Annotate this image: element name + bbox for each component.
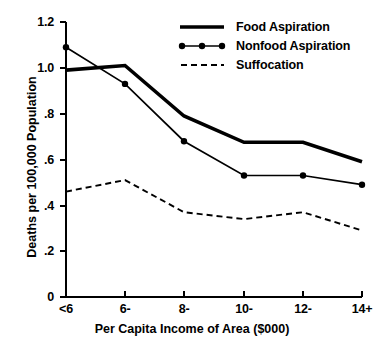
legend-label-food-aspiration: Food Aspiration — [230, 20, 330, 34]
legend-item-nonfood-aspiration: Nonfood Aspiration — [178, 36, 378, 55]
legend-label-nonfood-aspiration: Nonfood Aspiration — [230, 39, 350, 53]
x-tick-label-8: 8- — [164, 302, 204, 316]
legend-item-food-aspiration: Food Aspiration — [178, 17, 378, 36]
series-line-suffocation — [66, 180, 362, 230]
x-tick-label-10: 10- — [224, 302, 264, 316]
x-tick-label-6: 6- — [105, 302, 145, 316]
x-tick-label-12: 12- — [283, 302, 323, 316]
series-line-food-aspiration — [66, 66, 362, 162]
chart-figure: 1.2 1.0 .8 .6 .4 .2 0 <6 6- 8- 10- 12- 1… — [0, 0, 384, 345]
legend-item-suffocation: Suffocation — [178, 55, 378, 74]
legend-label-suffocation: Suffocation — [230, 58, 304, 72]
y-tick-label-1-2: 1.2 — [20, 15, 54, 29]
x-tick-label-under-6: <6 — [46, 302, 86, 316]
x-axis-title: Per Capita Income of Area ($000) — [0, 322, 384, 336]
chart-legend: Food Aspiration Nonfood Aspiration Suffo… — [178, 17, 378, 74]
x-tick-label-14-plus: 14+ — [342, 302, 382, 316]
dashed-line-swatch — [178, 57, 230, 73]
dotted-marker-line-swatch — [178, 38, 230, 54]
thick-solid-line-swatch — [178, 19, 230, 35]
y-axis-title: Deaths per 100,000 Population — [25, 57, 39, 277]
